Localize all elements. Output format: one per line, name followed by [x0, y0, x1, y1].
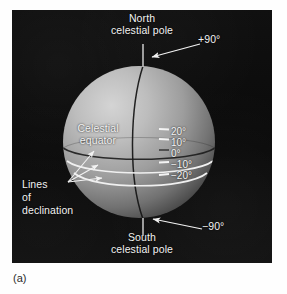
north-celestial-pole-label: North celestial pole — [12, 13, 272, 36]
south-pole-declination-value: −90° — [202, 221, 224, 233]
north-celestial-pole-label-line2: celestial pole — [12, 25, 272, 37]
lines-of-declination-label-line2: of — [22, 191, 108, 204]
south-celestial-pole-label-line1: South — [12, 232, 272, 244]
lines-of-declination-label: Lines of declination — [22, 178, 108, 217]
celestial-sphere-drawing — [12, 10, 272, 263]
figure-container: North celestial pole +90° South celestia… — [0, 0, 287, 294]
lines-of-declination-label-line1: Lines — [22, 178, 108, 191]
leader-arrow-south-pole — [153, 219, 202, 229]
lines-of-declination-label-line3: declination — [22, 204, 108, 217]
celestial-equator-label-line2: equator — [56, 135, 140, 147]
north-celestial-pole-label-line1: North — [12, 13, 272, 25]
declination-tick-20 — [159, 129, 169, 130]
declination-tick-minus20 — [159, 174, 169, 175]
north-pole-declination-value: +90° — [198, 34, 220, 46]
south-celestial-pole-label-line2: celestial pole — [12, 244, 272, 256]
south-celestial-pole-label: South celestial pole — [12, 232, 272, 255]
celestial-sphere-image-panel: North celestial pole +90° South celestia… — [12, 10, 272, 263]
declination-tick-minus10 — [159, 162, 169, 163]
celestial-equator-label: Celestial equator — [56, 123, 140, 146]
declination-tick-10 — [159, 139, 169, 140]
figure-caption: (a) — [13, 272, 26, 284]
declination-scale: 20° 10° 0° −10° −20° — [171, 127, 223, 182]
declination-value-minus20: −20° — [171, 171, 223, 182]
celestial-equator-label-line1: Celestial — [56, 123, 140, 135]
leader-arrow-north-pole — [152, 44, 200, 57]
